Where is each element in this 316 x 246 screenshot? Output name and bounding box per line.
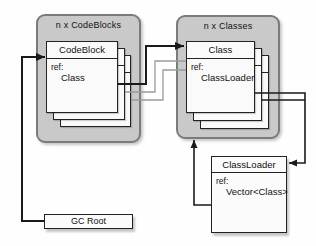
codeblock-card-title: CodeBlock [47,42,117,59]
class-card: Class ref: ClassLoader [186,41,255,113]
edge-classloader-ref-to-classes [194,140,211,205]
classloader-ref-value: Vector<Class> [216,186,284,198]
arrowhead-class-ref-to-classloader [289,160,297,167]
classloader-ref-label: ref: [216,176,284,186]
classloader-box-title: ClassLoader [212,157,286,173]
class-ref-label: ref: [191,62,252,72]
codeblock-ref-value: Class [51,72,115,84]
class-card-title: Class [187,42,254,59]
classloader-box: ClassLoader ref: Vector<Class> [211,156,287,233]
codeblock-ref-label: ref: [51,62,115,72]
class-ref-value: ClassLoader [191,72,252,84]
codeblock-card-body: ref: Class [47,59,117,84]
gc-root-box: GC Root [44,214,133,229]
arrowhead-classloader-ref-to-classes [191,140,198,148]
diagram-canvas: n x CodeBlocks CodeBlock ref: Class n x … [0,0,316,246]
codeblocks-container-label: n x CodeBlocks [38,20,139,30]
classloader-box-body: ref: Vector<Class> [212,173,286,198]
class-card-body: ref: ClassLoader [187,59,254,84]
classes-container-label: n x Classes [178,21,278,31]
codeblock-card: CodeBlock ref: Class [46,41,118,113]
